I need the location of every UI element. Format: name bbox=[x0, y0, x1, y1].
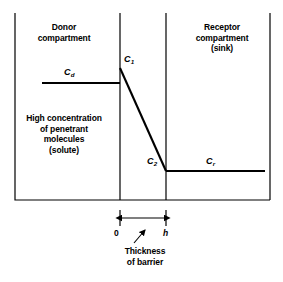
thickness-dimension bbox=[120, 210, 166, 243]
cr-subscript: r bbox=[213, 160, 215, 167]
receptor-compartment-label: Receptor compartment (sink) bbox=[176, 22, 268, 54]
c1-subscript: 1 bbox=[131, 58, 134, 65]
thickness-leader-arrow bbox=[134, 230, 145, 243]
c2-symbol: C2 bbox=[147, 156, 157, 166]
thickness-tick-label: h bbox=[163, 228, 168, 238]
cr-symbol: Cr bbox=[206, 156, 215, 166]
c2-base: C bbox=[147, 156, 154, 166]
donor-compartment-label: Donor compartment bbox=[18, 22, 110, 43]
barrier-gradient-line bbox=[120, 68, 166, 171]
c2-subscript: 2 bbox=[154, 160, 157, 167]
solute-description-label: High concentration of penetrant molecule… bbox=[16, 113, 112, 155]
c1-symbol: C1 bbox=[124, 54, 134, 64]
cd-symbol: Cd bbox=[64, 67, 74, 77]
cr-base: C bbox=[206, 156, 213, 166]
c1-base: C bbox=[124, 54, 131, 64]
cd-base: C bbox=[64, 67, 71, 77]
barrier-boundaries bbox=[120, 13, 166, 200]
cd-subscript: d bbox=[71, 71, 75, 78]
thickness-of-barrier-label: Thickness of barrier bbox=[106, 246, 184, 267]
origin-tick-label: 0 bbox=[114, 228, 119, 238]
concentration-profile-diagram: Donor compartment Receptor compartment (… bbox=[0, 0, 283, 282]
